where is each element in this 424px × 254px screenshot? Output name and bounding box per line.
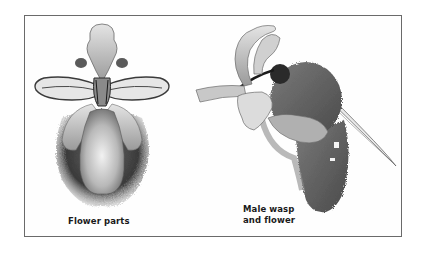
flower-labellum — [80, 109, 125, 194]
wasp-head — [270, 64, 290, 84]
caption-male-wasp: Male wasp and flower — [243, 204, 295, 226]
wasp-flower-lower-petal — [238, 92, 273, 130]
caption-flower-parts: Flower parts — [68, 216, 130, 227]
flower-knob-right — [116, 58, 128, 68]
flower-knob-left — [75, 58, 87, 68]
flower-illustration — [35, 24, 169, 206]
caption-flower-text: Flower parts — [68, 216, 130, 226]
caption-wasp-line2: and flower — [243, 215, 295, 226]
wasp-illustration — [196, 26, 396, 213]
flower-dorsal-sepal — [87, 24, 117, 82]
illustration — [0, 0, 424, 254]
caption-wasp-line1: Male wasp — [243, 204, 295, 215]
